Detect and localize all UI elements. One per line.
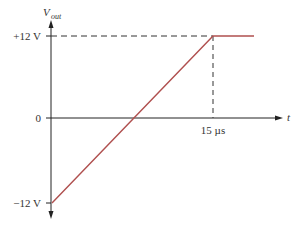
- y-axis-label-main: V: [43, 6, 51, 18]
- x-axis-arrow-icon: [275, 116, 283, 121]
- y-label-neg12: −12 V: [13, 197, 41, 209]
- y-axis-label-sub: out: [51, 12, 62, 21]
- y-axis-arrow-up-icon: [49, 20, 54, 28]
- y-label-zero: 0: [36, 112, 42, 124]
- y-axis-arrow-down-icon: [49, 211, 54, 219]
- x-axis-label: t: [287, 111, 291, 123]
- chart-svg: +12 V 0 −12 V 15 µs t V out: [0, 0, 295, 228]
- x-tick-label-15us: 15 µs: [201, 124, 225, 136]
- chart: +12 V 0 −12 V 15 µs t V out: [0, 0, 295, 228]
- y-label-pos12: +12 V: [13, 30, 41, 42]
- vout-waveform: [52, 36, 254, 203]
